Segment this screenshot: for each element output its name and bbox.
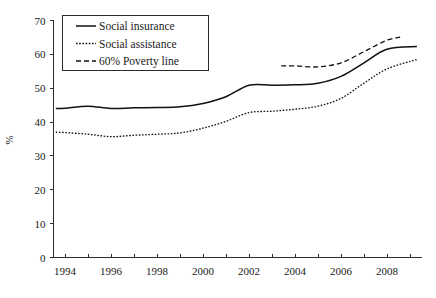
x-tick-label: 2006	[330, 265, 353, 277]
legend-label: 60% Poverty line	[99, 55, 179, 68]
data-series-group	[56, 37, 417, 137]
y-tick-label: 30	[35, 150, 47, 162]
y-tick-label: 20	[35, 184, 47, 196]
y-axis-ticks	[50, 21, 54, 258]
y-tick-label: 50	[35, 82, 47, 94]
x-axis-ticks	[65, 254, 410, 258]
x-tick-label: 2000	[192, 265, 215, 277]
y-tick-label: 60	[35, 48, 47, 60]
y-tick-label: 40	[35, 116, 47, 128]
legend-entries: Social insuranceSocial assistance60% Pov…	[76, 20, 179, 68]
series-line	[281, 37, 403, 67]
x-tick-label: 2002	[238, 265, 260, 277]
x-tick-label: 1994	[54, 265, 77, 277]
y-axis-title: %	[3, 135, 15, 144]
x-tick-label: 1998	[146, 265, 169, 277]
axes-group: 010203040506070 199419961998200020022004…	[35, 15, 422, 277]
y-tick-label: 10	[35, 218, 47, 230]
y-axis-tick-labels: 010203040506070	[35, 15, 47, 264]
x-tick-label: 2008	[376, 265, 399, 277]
y-tick-label: 0	[40, 252, 46, 264]
legend-label: Social assistance	[99, 38, 177, 50]
chart-figure: 010203040506070 199419961998200020022004…	[0, 0, 436, 298]
x-tick-label: 1996	[100, 265, 123, 277]
series-line	[56, 59, 417, 136]
y-tick-label: 70	[35, 15, 47, 27]
chart-legend: Social insuranceSocial assistance60% Pov…	[63, 16, 209, 71]
line-chart: 010203040506070 199419961998200020022004…	[0, 0, 436, 298]
x-tick-label: 2004	[284, 265, 307, 277]
legend-label: Social insurance	[99, 20, 175, 32]
x-axis-tick-labels: 19941996199820002002200420062008	[54, 265, 399, 277]
